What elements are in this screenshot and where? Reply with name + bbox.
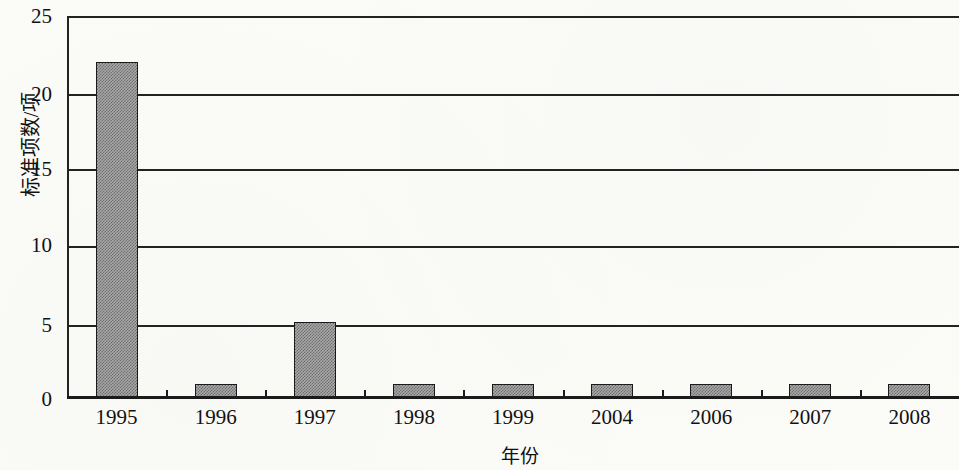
- y-tick-label-10: 10: [2, 235, 52, 256]
- y-tick-label-25: 25: [2, 6, 52, 27]
- x-tick-label-1997: 1997: [265, 404, 364, 430]
- x-tick-label-2007: 2007: [761, 404, 860, 430]
- x-tick-label-1999: 1999: [463, 404, 562, 430]
- bar-1997[interactable]: [294, 322, 336, 399]
- x-tick-label-1998: 1998: [364, 404, 463, 430]
- bar-slot: [662, 16, 761, 399]
- x-tick-label-2006: 2006: [662, 404, 761, 430]
- bar-slot: [563, 16, 662, 399]
- x-axis-tick-labels: 199519961997199819992004200620072008: [67, 404, 959, 436]
- x-axis-title: 年份: [450, 441, 590, 468]
- y-tick-label-15: 15: [2, 159, 52, 180]
- bar-slot: [265, 16, 364, 399]
- y-tick-label-0: 0: [2, 389, 52, 410]
- bar-slot: [463, 16, 562, 399]
- bar-slot: [67, 16, 166, 399]
- x-tick-label-2008: 2008: [860, 404, 959, 430]
- x-axis-line: [67, 396, 959, 399]
- x-tick-label-1995: 1995: [67, 404, 166, 430]
- bar-slot: [860, 16, 959, 399]
- y-axis-tick-labels: 25 20 15 10 5 0: [0, 0, 60, 470]
- bar-slot: [166, 16, 265, 399]
- bar-slot: [761, 16, 860, 399]
- y-tick-label-20: 20: [2, 84, 52, 105]
- bar-slot: [364, 16, 463, 399]
- x-tick-label-2004: 2004: [563, 404, 662, 430]
- bar-series: [67, 16, 959, 399]
- bar-1995[interactable]: [96, 62, 138, 399]
- x-tick-label-1996: 1996: [166, 404, 265, 430]
- bar-chart-figure: 标准项数/项 25 20 15 10 5 0 19951996199719981…: [0, 0, 959, 470]
- y-tick-label-5: 5: [2, 315, 52, 336]
- plot-area: [67, 16, 959, 399]
